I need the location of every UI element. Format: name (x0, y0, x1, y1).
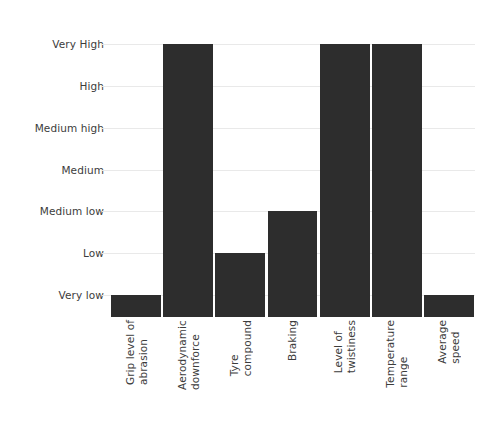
x-tick-label: Aerodynamic downforce (162, 320, 214, 418)
x-tick-label-text: Tyre compound (228, 320, 253, 376)
y-tick-label: Medium high (0, 122, 104, 134)
bar-chart: Very HighHighMedium highMediumMedium low… (0, 0, 502, 423)
x-tick-label: Braking (266, 320, 318, 418)
y-tick-label: Medium low (0, 205, 104, 217)
bar[interactable] (424, 295, 474, 317)
bar[interactable] (215, 253, 265, 317)
x-tick-label: Temperature range (371, 320, 423, 418)
bar[interactable] (320, 44, 370, 317)
bar[interactable] (268, 211, 318, 317)
plot-area (110, 40, 475, 317)
x-axis: Grip level of abrasionAerodynamic downfo… (110, 320, 475, 420)
y-axis: Very HighHighMedium highMediumMedium low… (0, 0, 104, 423)
x-tick-label: Level of twistiness (319, 320, 371, 418)
x-tick-label: Grip level of abrasion (110, 320, 162, 418)
y-tick-label: High (0, 80, 104, 92)
x-tick-label-text: Average speed (436, 320, 461, 364)
y-tick-label: Very low (0, 289, 104, 301)
x-tick-label: Average speed (423, 320, 475, 418)
y-tick-label: Low (0, 247, 104, 259)
x-tick-label-text: Level of twistiness (332, 320, 357, 373)
x-tick-label: Tyre compound (214, 320, 266, 418)
bar[interactable] (163, 44, 213, 317)
x-tick-label-text: Braking (286, 320, 299, 361)
y-tick-label: Very High (0, 38, 104, 50)
x-tick-label-text: Aerodynamic downforce (176, 320, 201, 390)
x-tick-label-text: Grip level of abrasion (124, 320, 149, 385)
bar[interactable] (372, 44, 422, 317)
bar[interactable] (111, 295, 161, 317)
x-tick-label-text: Temperature range (384, 320, 409, 388)
y-tick-label: Medium (0, 164, 104, 176)
